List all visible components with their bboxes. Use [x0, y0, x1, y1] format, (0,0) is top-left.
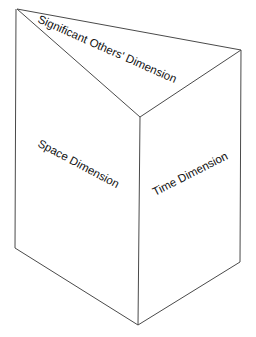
prism-diagram: Significant Others' Dimension Space Dime… [0, 0, 256, 337]
